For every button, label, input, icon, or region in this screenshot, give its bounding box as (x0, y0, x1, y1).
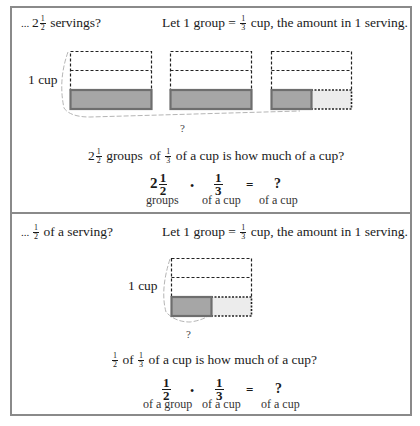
question-fraction-1: 12 (112, 352, 118, 369)
question-mid: of (119, 352, 137, 367)
group-1 (172, 259, 252, 317)
question-post: of a cup is how much of a cup? (145, 352, 317, 367)
frac-den: 2 (112, 361, 118, 369)
eq-operator: • (190, 385, 194, 397)
eq-result: ? (275, 382, 282, 396)
eq-term2-label: of a cup (202, 397, 241, 412)
eq-equals: = (246, 383, 253, 396)
bottom-brace-label: ? (186, 329, 191, 340)
bottom-question: 12 of 13 of a cup is how much of a cup? (111, 352, 317, 369)
eq-term1-label: of a group (143, 397, 192, 412)
frac-den: 3 (138, 361, 144, 369)
eq-result-label: of a cup (261, 397, 300, 412)
question-fraction-2: 13 (138, 352, 144, 369)
